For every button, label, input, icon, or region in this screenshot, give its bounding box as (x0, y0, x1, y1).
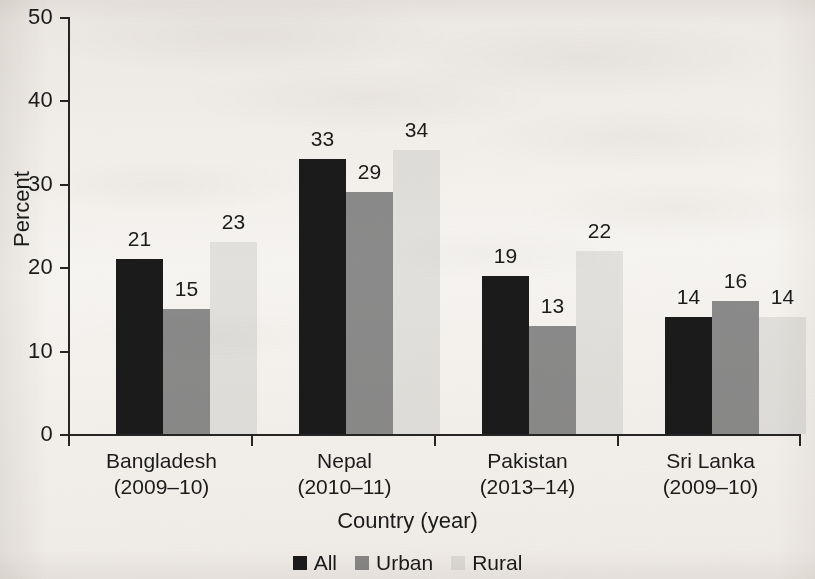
value-bangladesh-all: 21 (116, 228, 163, 249)
x-axis-group-label-bangladesh: Bangladesh (2009–10) (70, 448, 253, 499)
y-axis-tick-30 (60, 184, 69, 186)
group-name-pakistan: Pakistan (436, 448, 619, 474)
x-axis-title: Country (year) (0, 508, 815, 534)
x-axis-group-label-nepal: Nepal (2010–11) (253, 448, 436, 499)
x-axis-group-label-pakistan: Pakistan (2013–14) (436, 448, 619, 499)
value-srilanka-urban: 16 (712, 270, 759, 291)
legend-swatch-urban-icon (355, 556, 369, 570)
bar-srilanka-rural (759, 317, 806, 434)
plot-area (70, 17, 801, 434)
value-nepal-urban: 29 (346, 161, 393, 182)
y-axis-tick-10 (60, 351, 69, 353)
legend-label-urban: Urban (376, 552, 433, 573)
bar-bangladesh-all (116, 259, 163, 434)
y-axis-label-50: 50 (28, 6, 53, 28)
bar-chart-figure: 50 40 30 20 10 0 Percent 21 15 23 33 29 … (0, 0, 815, 579)
legend-item-urban: Urban (355, 552, 433, 573)
bar-srilanka-all (665, 317, 712, 434)
bar-bangladesh-rural (210, 242, 257, 434)
group-name-nepal: Nepal (253, 448, 436, 474)
value-pakistan-rural: 22 (576, 220, 623, 241)
group-year-bangladesh: (2009–10) (70, 474, 253, 500)
y-axis-tick-20 (60, 267, 69, 269)
bar-srilanka-urban (712, 301, 759, 434)
chart-legend: All Urban Rural (0, 552, 815, 573)
value-bangladesh-rural: 23 (210, 211, 257, 232)
y-axis-tick-40 (60, 100, 69, 102)
legend-swatch-all-icon (293, 556, 307, 570)
value-pakistan-urban: 13 (529, 295, 576, 316)
x-axis-tick-end (799, 436, 801, 446)
bar-pakistan-rural (576, 251, 623, 434)
group-name-srilanka: Sri Lanka (619, 448, 802, 474)
bar-pakistan-urban (529, 326, 576, 434)
value-pakistan-all: 19 (482, 245, 529, 266)
y-axis-tick-50 (60, 17, 69, 19)
bar-nepal-rural (393, 150, 440, 434)
legend-label-all: All (314, 552, 337, 573)
x-axis-tick-start (68, 436, 70, 446)
x-axis-tick-1 (251, 436, 253, 446)
legend-item-rural: Rural (451, 552, 522, 573)
group-name-bangladesh: Bangladesh (70, 448, 253, 474)
y-axis-label-10: 10 (28, 340, 53, 362)
group-year-srilanka: (2009–10) (619, 474, 802, 500)
legend-item-all: All (293, 552, 337, 573)
y-axis-label-0: 0 (40, 423, 53, 445)
x-axis-group-label-srilanka: Sri Lanka (2009–10) (619, 448, 802, 499)
bar-nepal-all (299, 159, 346, 434)
bar-nepal-urban (346, 192, 393, 434)
value-srilanka-rural: 14 (759, 286, 806, 307)
x-axis-tick-2 (434, 436, 436, 446)
value-nepal-all: 33 (299, 128, 346, 149)
bar-pakistan-all (482, 276, 529, 434)
legend-label-rural: Rural (472, 552, 522, 573)
legend-swatch-rural-icon (451, 556, 465, 570)
y-axis-label-40: 40 (28, 89, 53, 111)
value-bangladesh-urban: 15 (163, 278, 210, 299)
y-axis-title: Percent (9, 154, 35, 264)
value-nepal-rural: 34 (393, 119, 440, 140)
bar-bangladesh-urban (163, 309, 210, 434)
group-year-nepal: (2010–11) (253, 474, 436, 500)
value-srilanka-all: 14 (665, 286, 712, 307)
group-year-pakistan: (2013–14) (436, 474, 619, 500)
x-axis-tick-3 (617, 436, 619, 446)
